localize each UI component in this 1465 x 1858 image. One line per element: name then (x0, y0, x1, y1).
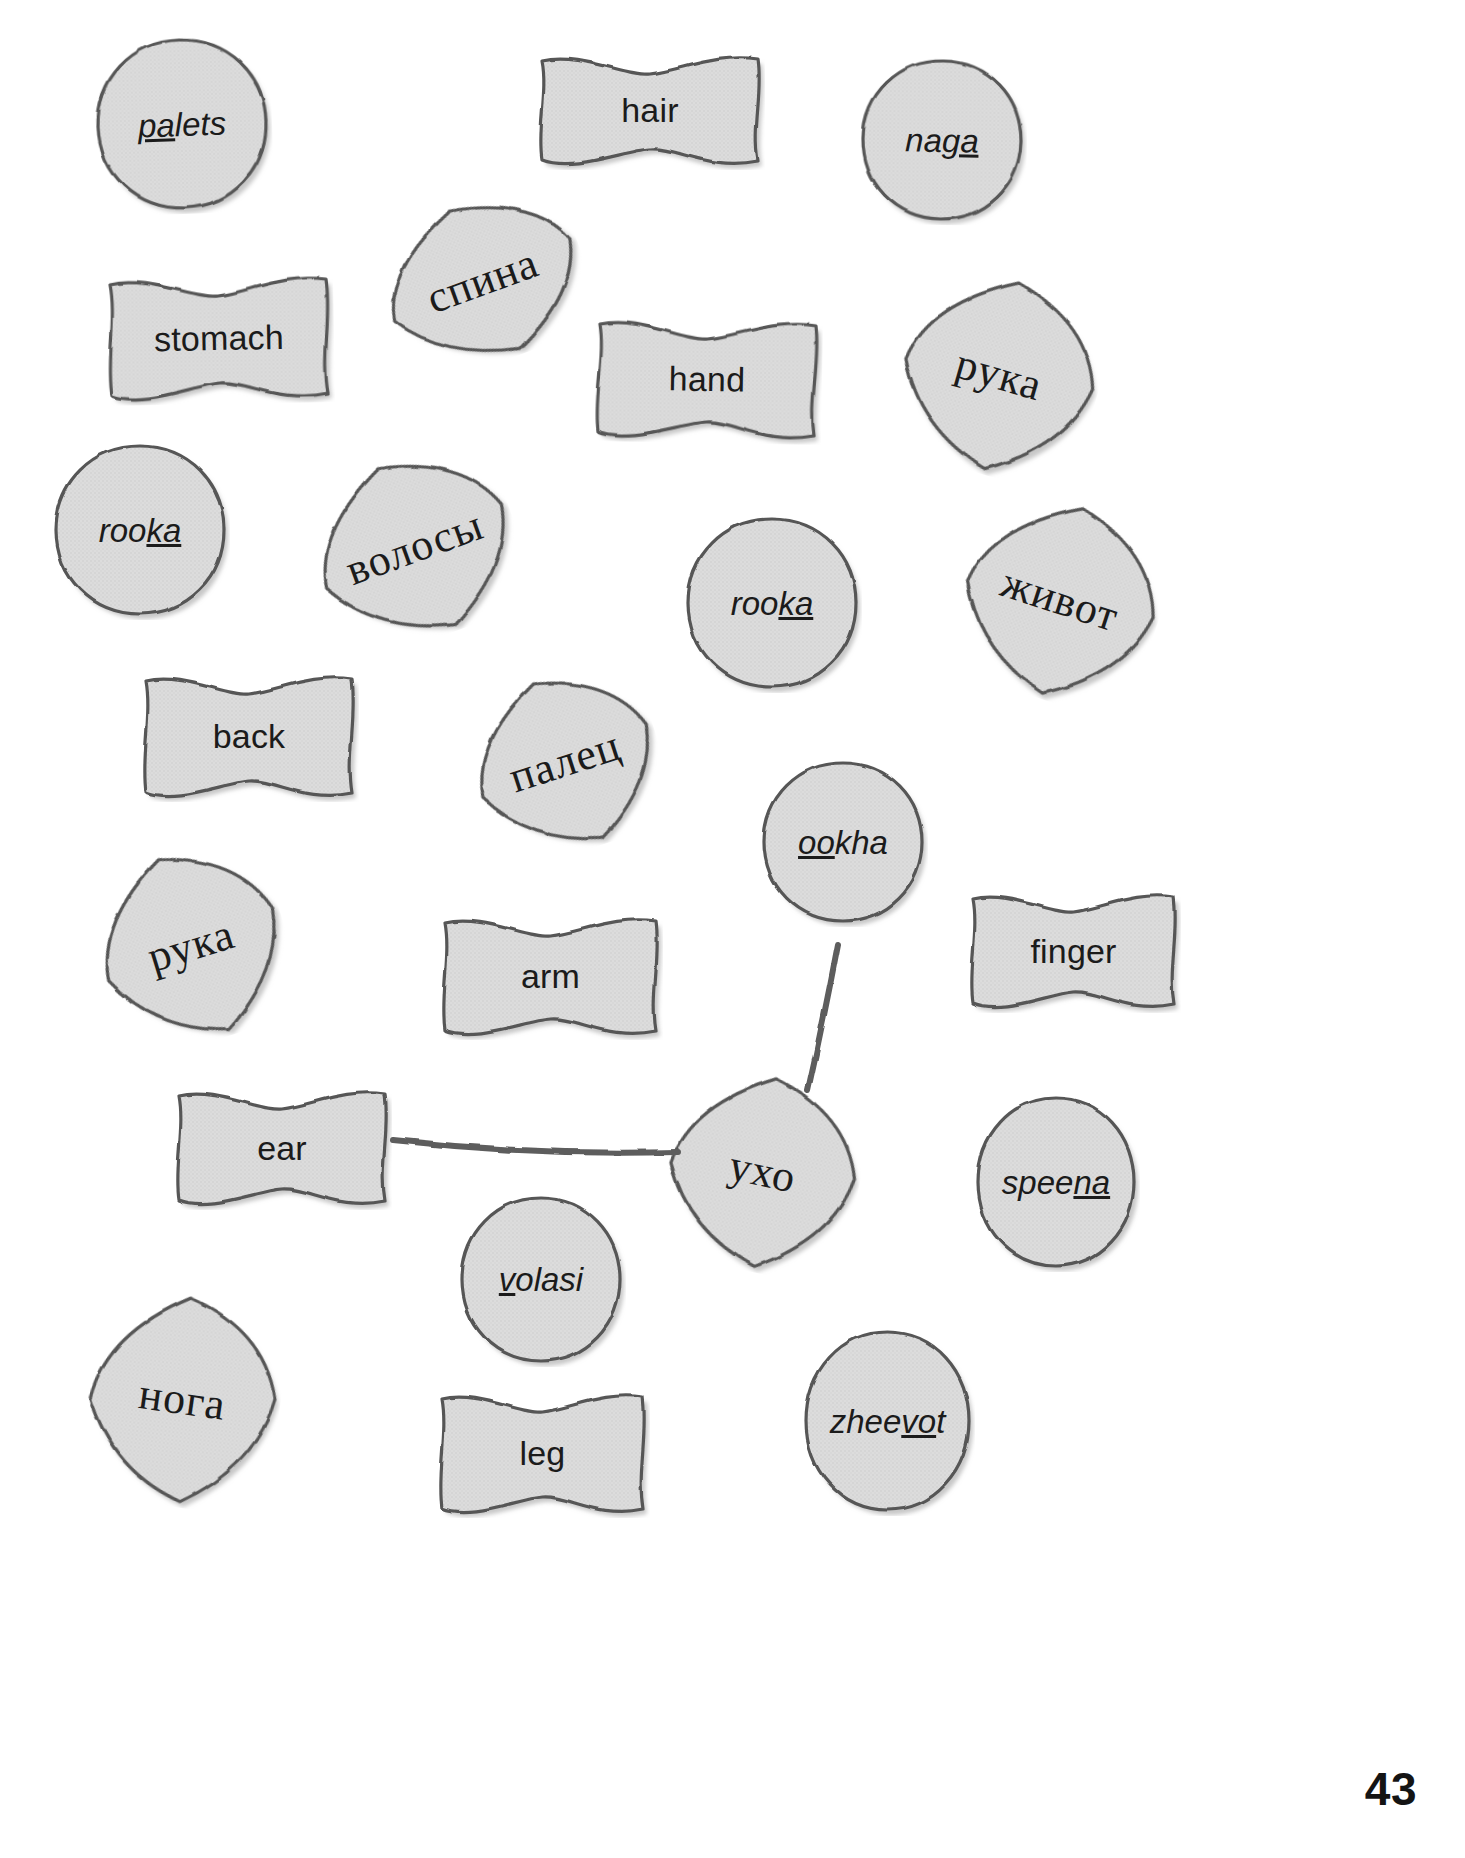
connector-ear-to-ukho[interactable] (393, 1140, 678, 1153)
connector-lines-layer (0, 0, 1465, 1858)
worksheet-canvas: paletshairnagastomachспинаhandрукаrookaв… (0, 0, 1465, 1858)
connector-ookha-to-ukho[interactable] (808, 944, 838, 1090)
